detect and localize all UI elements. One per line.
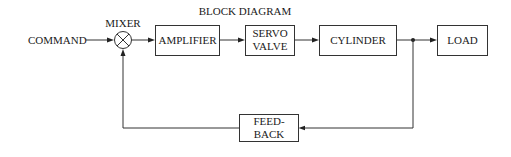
block-diagram: BLOCK DIAGRAM COMMAND MIXER AMPLIFIER SE…	[0, 0, 511, 157]
feedback-to-mixer-wire	[123, 53, 240, 128]
command-label: COMMAND	[28, 34, 87, 46]
servo-valve-label-line1: SERVO	[252, 27, 287, 39]
load-label: LOAD	[447, 34, 478, 46]
amplifier-block: AMPLIFIER	[156, 26, 220, 56]
feedback-block: FEED- BACK	[240, 115, 299, 142]
servo-arrowhead	[238, 38, 245, 43]
load-block: LOAD	[438, 26, 488, 56]
cylinder-block: CYLINDER	[320, 26, 397, 56]
diagram-title: BLOCK DIAGRAM	[199, 5, 292, 17]
feedback-label-line2: BACK	[254, 128, 285, 140]
mixer-feedback-arrowhead	[121, 49, 126, 56]
feedback-arrowhead	[299, 126, 306, 130]
command-arrowhead	[107, 38, 114, 43]
servo-valve-label-line2: VALVE	[253, 40, 288, 52]
servo-valve-block: SERVO VALVE	[246, 26, 295, 56]
cylinder-label: CYLINDER	[330, 34, 386, 46]
cylinder-arrowhead	[312, 38, 319, 43]
amplifier-arrowhead	[148, 38, 155, 43]
mixer-summing-junction	[115, 32, 132, 49]
amplifier-label: AMPLIFIER	[158, 34, 217, 46]
feedback-label-line1: FEED-	[253, 115, 285, 127]
mixer-label: MIXER	[105, 17, 141, 29]
load-arrowhead	[430, 38, 437, 43]
